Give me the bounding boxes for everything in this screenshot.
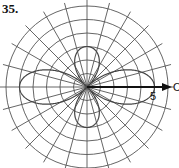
grid-radial-line — [87, 25, 149, 87]
axis-end-label: O — [173, 81, 179, 93]
grid-radial-line — [87, 87, 149, 149]
polar-plot: 5 O — [0, 0, 179, 168]
grid-radial-line — [25, 87, 87, 149]
arrow-right-icon — [162, 83, 172, 91]
grid-radial-line — [87, 87, 171, 110]
grid-radial-line — [3, 64, 87, 87]
polar-grid — [0, 0, 174, 168]
axis-tick-label: 5 — [150, 90, 156, 102]
grid-radial-line — [25, 25, 87, 87]
grid-radial-line — [3, 87, 87, 110]
grid-radial-line — [87, 64, 171, 87]
